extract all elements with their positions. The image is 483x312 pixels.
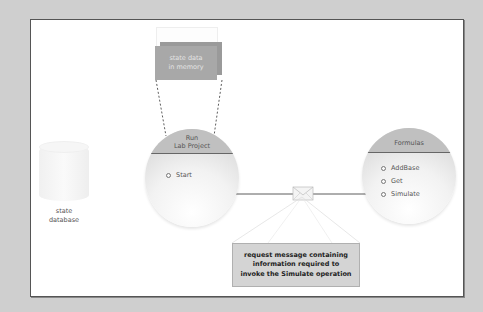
operation-start: Start xyxy=(166,171,192,179)
run-lab-project-service: Run Lab Project Start xyxy=(145,129,239,227)
operation-addbase: AddBase xyxy=(381,164,419,172)
memory-box-line2: in memory xyxy=(168,63,203,72)
operation-get: Get xyxy=(381,177,403,185)
message-line3: invoke the Simulate operation xyxy=(240,270,351,280)
run-service-title-line1: Run xyxy=(186,134,198,142)
operation-label: Simulate xyxy=(391,190,420,198)
database-label-line2: database xyxy=(34,216,94,225)
formulas-service-title: Formulas xyxy=(394,139,424,147)
database-cylinder-icon xyxy=(39,145,89,201)
run-service-header: Run Lab Project xyxy=(145,129,239,154)
operation-simulate: Simulate xyxy=(381,190,420,198)
database-label: state database xyxy=(34,207,94,225)
operation-label: Get xyxy=(391,177,403,185)
operation-dot-icon xyxy=(381,192,386,197)
formulas-service: Formulas AddBase Get Simulate xyxy=(362,128,456,224)
database-cylinder-top xyxy=(39,141,89,153)
memory-box-line1: state data xyxy=(169,54,202,63)
operation-dot-icon xyxy=(166,173,171,178)
run-service-title-line2: Lab Project xyxy=(174,142,210,150)
message-line1: request message containing xyxy=(244,251,348,261)
operation-dot-icon xyxy=(381,179,386,184)
database-label-line1: state xyxy=(34,207,94,216)
operation-label: AddBase xyxy=(391,164,419,172)
message-line2: information required to xyxy=(253,260,339,270)
request-message-callout: request message containing information r… xyxy=(232,243,360,287)
operation-label: Start xyxy=(176,171,192,179)
operation-dot-icon xyxy=(381,166,386,171)
memory-box: state data in memory xyxy=(155,46,217,80)
formulas-service-header: Formulas xyxy=(362,128,456,153)
